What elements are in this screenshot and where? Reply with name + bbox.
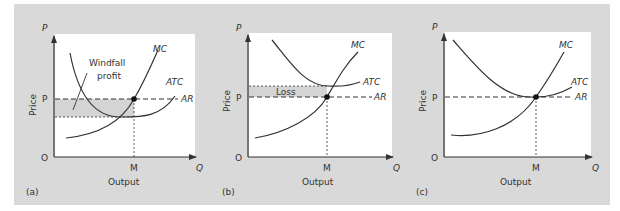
y-axis-symbol: P	[432, 22, 438, 32]
cost-curves-figure: P P O M Q Output Price (a) MC ATC AR Win…	[0, 0, 620, 211]
panel-caption: (b)	[222, 187, 235, 197]
x-axis-symbol: Q	[196, 163, 203, 173]
x-axis-symbol: Q	[592, 163, 599, 173]
panel-c: P P O M Q Output Price (c) MC ATC AR	[416, 22, 599, 197]
panel-caption: (a)	[26, 187, 39, 197]
y-axis-symbol: P	[42, 23, 48, 33]
equilibrium-point	[324, 94, 330, 100]
x-axis-symbol: Q	[393, 163, 400, 173]
atc-label: ATC	[362, 77, 381, 87]
y-axis-label: Price	[222, 90, 232, 112]
ar-label: AR	[180, 94, 193, 104]
panel-b: P P O M Q Output Price (b) MC ATC AR Los…	[222, 23, 400, 197]
quantity-tick-label: M	[130, 163, 138, 173]
quantity-tick-label: M	[323, 163, 331, 173]
origin-label: O	[431, 153, 438, 163]
equilibrium-point	[131, 96, 137, 102]
plot-area	[55, 34, 195, 157]
x-axis-label: Output	[302, 177, 334, 187]
price-tick-label: P	[432, 93, 438, 103]
plot-area	[445, 32, 591, 157]
atc-label: ATC	[570, 77, 589, 87]
y-axis-symbol: P	[236, 23, 242, 33]
atc-label: ATC	[165, 77, 184, 87]
mc-label: MC	[559, 40, 574, 50]
y-axis-label: Price	[418, 90, 428, 112]
price-tick-label: P	[42, 94, 48, 104]
ar-label: AR	[373, 92, 386, 102]
x-axis-label: Output	[500, 177, 532, 187]
y-axis-label: Price	[28, 94, 38, 116]
price-tick-label: P	[236, 93, 242, 103]
mc-label: MC	[153, 44, 168, 54]
panel-caption: (c)	[416, 187, 428, 197]
mc-label: MC	[351, 40, 366, 50]
quantity-tick-label: M	[532, 163, 540, 173]
ar-label: AR	[574, 92, 587, 102]
origin-label: O	[235, 153, 242, 163]
panel-a: P P O M Q Output Price (a) MC ATC AR Win…	[26, 23, 203, 197]
origin-label: O	[41, 153, 48, 163]
profit-label: profit	[97, 71, 121, 81]
windfall-label: Windfall	[89, 58, 125, 68]
loss-label: Loss	[276, 87, 296, 97]
x-axis-label: Output	[108, 177, 140, 187]
equilibrium-point	[533, 94, 539, 100]
